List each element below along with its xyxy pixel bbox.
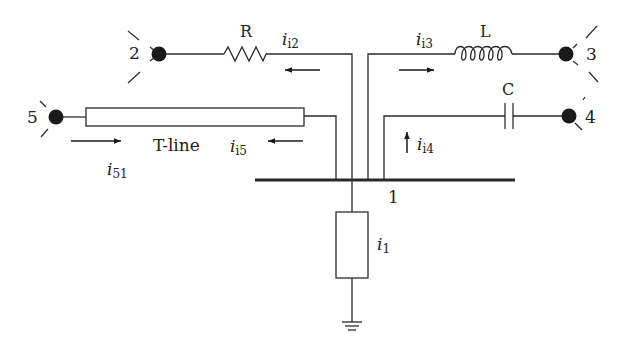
- capacitor-label: C: [502, 82, 514, 98]
- node-5-label: 5: [27, 109, 38, 126]
- node-3: [559, 47, 574, 62]
- branch-resistor: [160, 47, 352, 180]
- node-4-ticks: [575, 97, 585, 130]
- bus-1-label: 1: [388, 189, 399, 206]
- branch-inductor: [368, 47, 565, 181]
- current-label-i-i4: ii4: [417, 136, 434, 155]
- tline-label: T-line: [153, 137, 200, 154]
- ground-icon: [342, 322, 362, 330]
- current-label-i-51: i51: [107, 161, 128, 180]
- branch-capacitor: [384, 103, 565, 180]
- node-5: [49, 110, 64, 125]
- resistor-symbol: [224, 47, 266, 61]
- circuit-diagram: [0, 0, 624, 341]
- node-4: [562, 109, 577, 124]
- node-3-label: 3: [586, 46, 597, 63]
- load-box: [336, 212, 368, 278]
- branch-load: [336, 180, 368, 330]
- inductor-label: L: [480, 24, 491, 40]
- node-2-label: 2: [129, 45, 140, 62]
- tline-box: [86, 108, 304, 126]
- current-label-i-i5: ii5: [230, 138, 247, 157]
- current-label-i-i3: ii3: [416, 31, 433, 50]
- inductor-symbol: [455, 47, 512, 61]
- resistor-label: R: [240, 24, 252, 40]
- current-label-i-i2: ii2: [282, 31, 299, 50]
- current-label-i-1: i1: [377, 236, 390, 255]
- node-2: [152, 47, 167, 62]
- node-5-ticks: [40, 101, 48, 137]
- node-4-label: 4: [585, 109, 596, 126]
